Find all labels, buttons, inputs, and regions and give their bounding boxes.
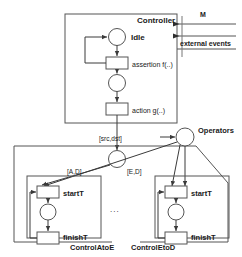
label-left-finishT: finishT [63, 233, 88, 242]
label-action: action g(..) [132, 107, 165, 115]
transition-left-startT [37, 186, 59, 198]
arc-operators-to-left-start [44, 142, 177, 186]
label-right-startT: startT [191, 189, 212, 198]
petri-net-diagram: Controller Idle assertion f(..) action g… [0, 0, 242, 257]
arc-left-feedback [30, 192, 37, 238]
place-operators [176, 128, 194, 146]
arc-operators-to-right-start-diag [172, 145, 180, 186]
label-e-to-d: [E,D] [127, 168, 142, 176]
transition-right-startT [165, 186, 187, 198]
label-a-to-d: [A,D] [67, 168, 82, 176]
subnet-box-right [155, 176, 229, 238]
label-idle: Idle [131, 33, 145, 42]
label-m-channel: M [200, 11, 206, 18]
place-mid [109, 151, 126, 168]
arc-feedback-to-idle [85, 37, 107, 63]
diagram-canvas: Controller Idle assertion f(..) action g… [0, 0, 242, 257]
label-src-dst: [src,dst] [99, 135, 122, 143]
arrowhead-external-in [173, 34, 180, 39]
place-controller-p2 [109, 75, 126, 92]
label-controller: Controller [137, 16, 175, 25]
label-subnet-control-e-to-d: ControlEtoD [131, 243, 176, 252]
label-left-startT: startT [63, 189, 84, 198]
label-assertion: assertion f(..) [132, 61, 173, 69]
place-left-middle [40, 204, 56, 220]
label-external-events: external events [180, 40, 231, 47]
arc-right-feedback [158, 192, 165, 238]
transition-left-finishT [37, 232, 59, 244]
label-ellipsis: ... [110, 205, 120, 214]
transition-assertion [106, 57, 128, 69]
subnet-box-left [27, 176, 101, 238]
place-right-middle [168, 204, 184, 220]
transition-action [106, 103, 128, 115]
label-operators: Operators [198, 126, 234, 135]
place-idle [109, 29, 126, 46]
label-right-finishT: finishT [191, 233, 216, 242]
label-subnet-control-a-to-e: ControlAtoE [70, 243, 114, 252]
